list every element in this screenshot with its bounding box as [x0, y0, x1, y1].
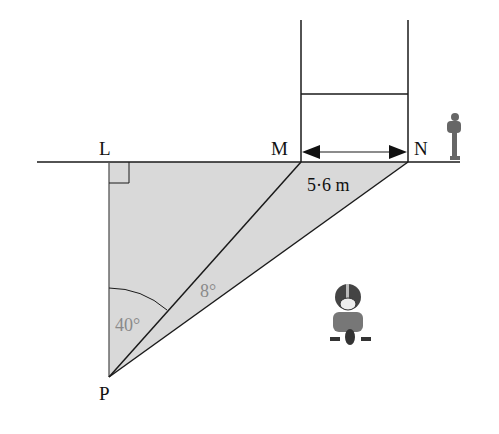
label-N: N: [414, 138, 428, 159]
label-L: L: [99, 138, 111, 159]
distance-label: 5·6 m: [307, 175, 350, 195]
arrowhead-right-icon: [389, 145, 407, 159]
holder-player-icon: [330, 284, 371, 345]
angle-8-label: 8°: [200, 281, 216, 301]
angle-40-label: 40°: [115, 315, 140, 335]
label-M: M: [271, 138, 288, 159]
diagram: L M N P 5·6 m 40° 8°: [0, 0, 499, 434]
label-P: P: [99, 383, 110, 404]
kicker-figure-icon: [447, 113, 461, 160]
diagram-canvas: L M N P 5·6 m 40° 8°: [0, 0, 499, 434]
arrowhead-left-icon: [302, 145, 320, 159]
